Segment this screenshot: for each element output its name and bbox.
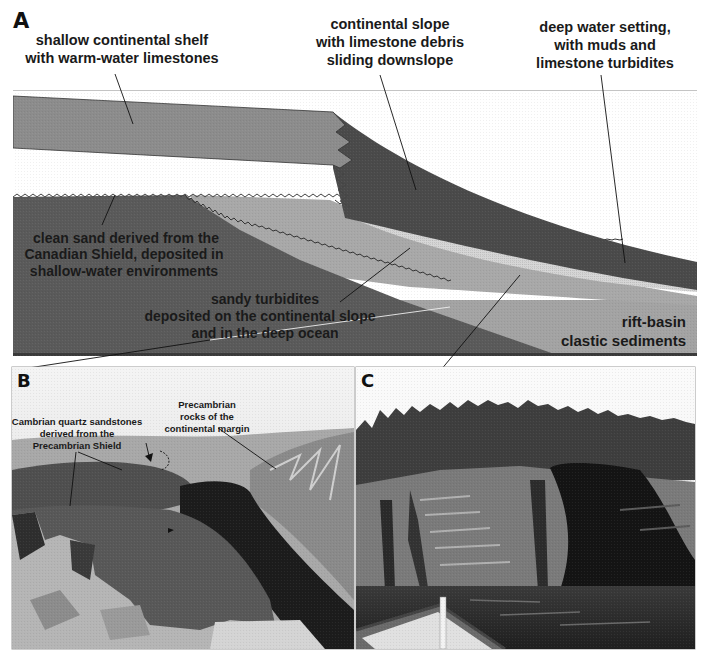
svg-text:with limestone debris: with limestone debris	[315, 34, 464, 50]
svg-text:rocks of the: rocks of the	[180, 411, 234, 422]
panel-c-photo: C	[356, 367, 695, 649]
svg-text:sliding downslope: sliding downslope	[327, 52, 453, 68]
label-slope: continental slope with limestone debris …	[315, 16, 464, 68]
label-deep-water: deep water setting, with muds and limest…	[536, 19, 674, 71]
label-shelf: shallow continental shelf with warm-wate…	[24, 32, 218, 66]
svg-text:with warm-water limestones: with warm-water limestones	[24, 50, 218, 66]
label-clean-sand: clean sand derived from the Canadian Shi…	[24, 230, 223, 279]
panel-a-letter: A	[13, 9, 30, 33]
svg-text:shallow continental shelf: shallow continental shelf	[36, 32, 209, 48]
svg-text:shallow-water environments: shallow-water environments	[30, 263, 218, 279]
geology-figure: A	[0, 0, 707, 655]
svg-text:continental slope: continental slope	[330, 16, 449, 32]
svg-text:derived from the: derived from the	[40, 428, 114, 439]
svg-text:Precambrian Shield: Precambrian Shield	[33, 440, 122, 451]
panel-b-letter: B	[17, 370, 31, 391]
svg-text:with muds and: with muds and	[553, 37, 656, 53]
svg-text:rift-basin: rift-basin	[622, 313, 686, 330]
svg-text:clean sand derived from the: clean sand derived from the	[33, 230, 219, 246]
svg-text:continental margin: continental margin	[165, 423, 250, 434]
svg-text:and in the deep ocean: and in the deep ocean	[191, 325, 338, 341]
svg-text:Precambrian: Precambrian	[178, 399, 236, 410]
svg-text:sandy turbidites: sandy turbidites	[211, 291, 319, 307]
svg-text:deposited on the continental: deposited on the continental slope	[144, 308, 375, 324]
panel-a-cross-section: A	[13, 9, 697, 395]
panel-c-letter: C	[361, 370, 374, 391]
svg-text:clastic sediments: clastic sediments	[561, 332, 686, 349]
svg-text:deep water setting,: deep water setting,	[539, 19, 670, 35]
svg-text:limestone turbidites: limestone turbidites	[536, 55, 674, 71]
panel-b-photo: B Cambrian quartz sandstones derived fro…	[12, 367, 354, 649]
svg-text:Canadian Shield, deposited in: Canadian Shield, deposited in	[24, 246, 223, 262]
svg-text:Cambrian quartz sandstones: Cambrian quartz sandstones	[12, 416, 142, 427]
